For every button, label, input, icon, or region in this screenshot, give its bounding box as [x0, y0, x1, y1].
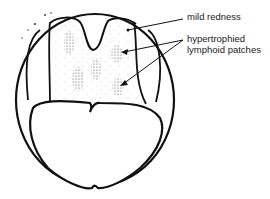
label-line-2: lymphoid patches	[187, 44, 261, 55]
tongue	[30, 101, 162, 188]
lymphoid-patch	[111, 45, 123, 63]
label-mild-redness: mild redness	[187, 11, 241, 22]
label-line-1: hypertrophied	[187, 33, 261, 44]
stray-dots	[21, 12, 52, 39]
lymphoid-patch	[91, 58, 101, 80]
lymphoid-patch	[72, 67, 84, 91]
throat-diagram	[0, 0, 270, 199]
left-tonsillar-pillar	[49, 22, 50, 103]
lymphoid-patch	[112, 78, 124, 96]
lymphoid-patch	[64, 31, 74, 55]
label-lymphoid-patches: hypertrophied lymphoid patches	[187, 33, 261, 55]
